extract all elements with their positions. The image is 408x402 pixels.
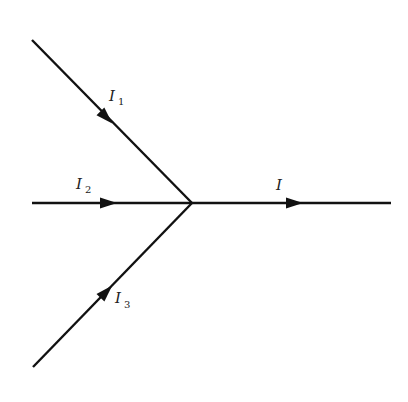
svg-text:I: I <box>114 289 122 307</box>
svg-text:3: 3 <box>124 299 130 310</box>
label-branch-1: I 1 <box>108 87 124 107</box>
label-branch-3: I 3 <box>114 289 130 310</box>
wire-branch-1 <box>32 40 192 203</box>
label-branch-out: I <box>275 176 283 194</box>
svg-text:1: 1 <box>118 96 124 107</box>
svg-text:I: I <box>75 175 83 193</box>
svg-text:2: 2 <box>85 184 91 195</box>
wire-branch-3 <box>33 203 192 367</box>
arrow-branch-2-icon <box>100 198 117 209</box>
svg-text:I: I <box>108 87 116 105</box>
arrow-branch-out-icon <box>286 198 303 209</box>
label-branch-2: I 2 <box>75 175 91 195</box>
junction-diagram: I 1 I 2 I 3 I <box>0 0 408 402</box>
svg-text:I: I <box>275 176 283 194</box>
